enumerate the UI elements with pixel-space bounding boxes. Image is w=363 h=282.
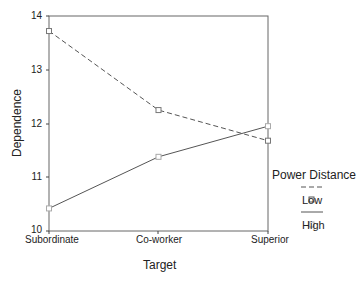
x-tick-label: Subordinate — [25, 234, 79, 245]
legend-label-high: High — [302, 219, 325, 231]
data-point-marker — [266, 138, 271, 143]
legend-label-low: Low — [302, 194, 322, 206]
legend-title: Power Distance — [272, 168, 356, 182]
data-point-marker — [47, 206, 52, 211]
data-point-marker — [47, 29, 52, 34]
plot-frame — [49, 16, 268, 231]
series-low-markers — [47, 29, 271, 144]
y-tick-label: 11 — [22, 171, 42, 182]
y-tick-label: 13 — [22, 64, 42, 75]
data-point-marker — [156, 154, 161, 159]
x-tick-label: Superior — [251, 234, 289, 245]
y-tick-label: 12 — [22, 118, 42, 129]
x-tick-label: Co-worker — [136, 234, 182, 245]
series-high-markers — [47, 124, 271, 211]
data-point-marker — [156, 108, 161, 113]
series-high-line — [49, 126, 268, 208]
data-point-marker — [266, 124, 271, 129]
y-tick-label: 14 — [22, 10, 42, 21]
x-axis-label: Target — [143, 258, 176, 272]
series-low-line — [49, 31, 268, 141]
y-axis-label: Dependence — [10, 88, 24, 158]
